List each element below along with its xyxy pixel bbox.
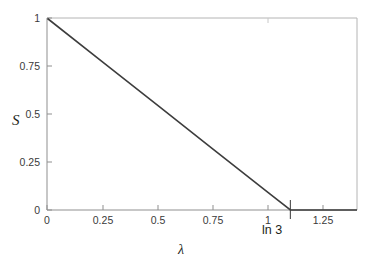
xtick-label-1-25: 1.25 bbox=[313, 215, 333, 226]
axes-frame bbox=[47, 18, 357, 210]
xtick-label-0-75: 0.75 bbox=[203, 215, 223, 226]
series-line-S bbox=[48, 19, 358, 211]
y-axis-title: S bbox=[12, 113, 20, 128]
y-axis-ticks bbox=[47, 18, 52, 210]
ln3-annotation-label: ln 3 bbox=[262, 224, 282, 237]
xtick-label-0: 0 bbox=[44, 215, 50, 226]
x-axis-title: λ bbox=[178, 243, 184, 257]
x-axis-ticks bbox=[47, 205, 323, 210]
plot-canvas bbox=[0, 0, 370, 269]
chart-figure: 1 0.75 0.5 0.25 0 0 0.25 0.5 0.75 1 1.25… bbox=[0, 0, 370, 269]
ytick-label-0-25: 0.25 bbox=[8, 157, 40, 168]
xtick-label-0-5: 0.5 bbox=[151, 215, 166, 226]
ytick-label-1: 1 bbox=[18, 13, 40, 24]
xtick-label-0-25: 0.25 bbox=[93, 215, 113, 226]
ytick-label-0: 0 bbox=[18, 205, 40, 216]
ytick-label-0-75: 0.75 bbox=[8, 61, 40, 72]
